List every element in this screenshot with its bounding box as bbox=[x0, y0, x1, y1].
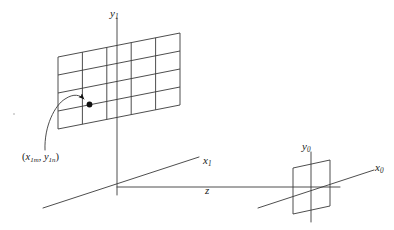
callout-curve bbox=[45, 95, 84, 150]
sample-point-x-sub: 1m bbox=[30, 156, 38, 163]
axis-label-z-base: z bbox=[205, 184, 209, 196]
scan-speck-left bbox=[13, 113, 15, 115]
sample-point-close-paren: ) bbox=[55, 151, 59, 162]
sample-point-dot bbox=[87, 102, 93, 108]
axis-label-x0-sub: 0 bbox=[380, 167, 384, 175]
diagram-canvas bbox=[0, 0, 394, 230]
axis-label-z: z bbox=[205, 185, 209, 196]
x0-axis bbox=[258, 170, 374, 208]
x1-axis bbox=[43, 157, 199, 208]
axis-label-x1-sub: 1 bbox=[208, 160, 212, 168]
axis-label-y0-sub: 0 bbox=[307, 146, 311, 154]
axis-label-x0: x0 bbox=[375, 162, 384, 175]
input-grid-row-3 bbox=[58, 87, 180, 111]
sample-point-label: (x1m, y1n) bbox=[22, 152, 59, 163]
input-grid-row-1 bbox=[58, 51, 180, 75]
axis-label-y0: y0 bbox=[302, 141, 311, 154]
input-grid-row-2 bbox=[58, 69, 180, 93]
coordinate-diagram-figure: y1 x1 z y0 x0 (x1m, y1n) bbox=[0, 0, 394, 230]
axis-label-x1: x1 bbox=[203, 155, 212, 168]
input-plane-grid bbox=[58, 33, 180, 129]
sample-point-callout bbox=[45, 95, 92, 150]
axis-label-y1: y1 bbox=[110, 8, 119, 21]
axis-label-y1-sub: 1 bbox=[115, 13, 119, 21]
